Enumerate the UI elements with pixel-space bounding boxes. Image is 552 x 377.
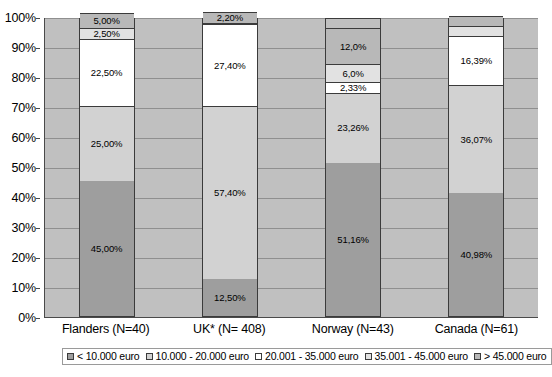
bar-segment[interactable]: 22,50% (80, 39, 134, 107)
bar-segment[interactable]: 23,26% (326, 93, 380, 163)
bar-segment-label: 2,33% (340, 83, 366, 93)
bar-slot: 12,50%57,40%27,40%2,20% (168, 18, 291, 317)
y-tick-label: 50% (12, 161, 36, 175)
bar-segment-label: 12,50% (214, 293, 246, 303)
bar-segment[interactable]: 12,0% (326, 28, 380, 64)
y-tick-label: 80% (12, 71, 36, 85)
bar-segment-label: 23,26% (337, 123, 369, 133)
bar-segment-label: 16,39% (461, 56, 493, 66)
stacked-bar[interactable]: 12,50%57,40%27,40%2,20% (202, 18, 258, 317)
plot-wrap: 45,00%25,00%22,50%2,50%5,00%12,50%57,40%… (44, 18, 538, 318)
bar-segment-label: 2,50% (93, 29, 119, 39)
legend-item[interactable]: 35.001 - 45.000 euro (365, 351, 469, 362)
stacked-bar[interactable]: 51,16%23,26%2,33%6,0%12,0% (325, 18, 381, 317)
legend-label: < 10.000 euro (77, 351, 140, 362)
bar-segment[interactable] (449, 16, 503, 26)
bar-segment[interactable]: 16,39% (449, 36, 503, 85)
bar-segment[interactable]: 2,50% (80, 28, 134, 39)
stacked-bar[interactable]: 40,98%36,07%16,39% (448, 18, 504, 317)
x-tick-label: Norway (N=43) (291, 322, 415, 336)
y-tick-label: 40% (12, 191, 36, 205)
bar-slot: 51,16%23,26%2,33%6,0%12,0% (292, 18, 415, 317)
bar-segment-label: 27,40% (214, 61, 246, 71)
y-tick-mark (36, 318, 40, 319)
y-tick-mark (36, 48, 40, 49)
y-tick-mark (36, 18, 40, 19)
legend-label: 20.001 - 35.000 euro (265, 351, 359, 362)
stacked-bar[interactable]: 45,00%25,00%22,50%2,50%5,00% (79, 18, 135, 317)
legend-swatch-icon (474, 353, 481, 360)
bar-segment-label: 6,0% (342, 69, 363, 79)
y-tick-label: 20% (12, 251, 36, 265)
x-axis: Flanders (N=40)UK* (N= 408)Norway (N=43)… (44, 322, 538, 336)
bars-layer: 45,00%25,00%22,50%2,50%5,00%12,50%57,40%… (45, 18, 538, 317)
bar-segment-label: 40,98% (461, 250, 493, 260)
bar-segment-label: 25,00% (91, 139, 123, 149)
y-tick-mark (36, 258, 40, 259)
bar-segment[interactable]: 45,00% (80, 181, 134, 316)
legend-label: 10.000 - 20.000 euro (156, 351, 250, 362)
y-tick-mark (36, 78, 40, 79)
bar-segment[interactable]: 2,33% (326, 82, 380, 93)
legend-item[interactable]: 10.000 - 20.000 euro (146, 351, 250, 362)
bar-segment[interactable]: 57,40% (203, 106, 257, 278)
y-tick-label: 60% (12, 131, 36, 145)
y-tick-label: 90% (12, 41, 36, 55)
bar-segment[interactable]: 36,07% (449, 85, 503, 193)
bar-segment[interactable]: 2,20% (203, 12, 257, 23)
bar-segment[interactable]: 6,0% (326, 64, 380, 82)
plot-area: 45,00%25,00%22,50%2,50%5,00%12,50%57,40%… (44, 18, 538, 318)
legend-item[interactable]: 20.001 - 35.000 euro (255, 351, 359, 362)
bar-segment-label: 51,16% (337, 235, 369, 245)
bar-segment-label: 2,20% (217, 13, 243, 23)
y-tick-label: 30% (12, 221, 36, 235)
bar-segment-label: 12,0% (340, 42, 366, 52)
bar-segment[interactable]: 25,00% (80, 106, 134, 181)
bar-segment-label: 5,00% (93, 16, 119, 26)
legend-swatch-icon (365, 353, 372, 360)
legend-swatch-icon (146, 353, 153, 360)
y-tick-mark (36, 108, 40, 109)
y-tick-label: 70% (12, 101, 36, 115)
legend-label: 35.001 - 45.000 euro (375, 351, 469, 362)
x-tick-label: Flanders (N=40) (44, 322, 168, 336)
x-tick-label: Canada (N=61) (415, 322, 539, 336)
legend-label: > 45.000 euro (484, 351, 547, 362)
bar-slot: 40,98%36,07%16,39% (415, 18, 538, 317)
bar-segment[interactable]: 40,98% (449, 193, 503, 316)
y-tick-label: 10% (12, 281, 36, 295)
y-axis: 0%10%20%30%40%50%60%70%80%90%100% (0, 18, 40, 318)
bar-segment-label: 45,00% (91, 244, 123, 254)
y-tick-label: 100% (5, 11, 36, 25)
bar-segment[interactable] (449, 26, 503, 36)
legend-swatch-icon (67, 353, 74, 360)
bar-segment[interactable]: 51,16% (326, 163, 380, 316)
bar-segment-label: 22,50% (91, 68, 123, 78)
y-tick-mark (36, 288, 40, 289)
bar-segment[interactable]: 12,50% (203, 279, 257, 317)
legend-item[interactable]: > 45.000 euro (474, 351, 547, 362)
y-tick-mark (36, 168, 40, 169)
bar-segment[interactable]: 5,00% (80, 13, 134, 28)
bar-segment-label: 57,40% (214, 188, 246, 198)
bar-slot: 45,00%25,00%22,50%2,50%5,00% (45, 18, 168, 317)
y-tick-mark (36, 198, 40, 199)
bar-segment-label: 36,07% (461, 135, 493, 145)
y-tick-mark (36, 228, 40, 229)
legend-item[interactable]: < 10.000 euro (67, 351, 140, 362)
y-tick-mark (36, 138, 40, 139)
bar-segment[interactable]: 27,40% (203, 24, 257, 106)
chart-legend: < 10.000 euro10.000 - 20.000 euro20.001 … (62, 348, 552, 365)
x-tick-label: UK* (N= 408) (168, 322, 292, 336)
y-tick-label: 0% (18, 311, 36, 325)
legend-swatch-icon (255, 353, 262, 360)
